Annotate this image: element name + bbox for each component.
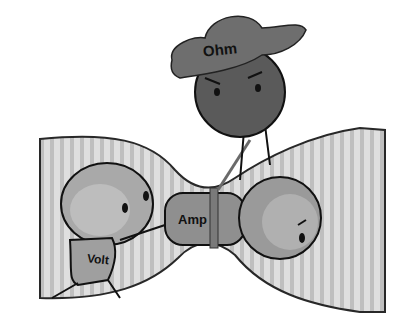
ohm-label: Ohm <box>202 39 238 59</box>
ohms-law-illustration: Amp Volt Ohm <box>0 0 401 333</box>
volt-label: Volt <box>86 251 109 267</box>
amp-label: Amp <box>178 212 207 227</box>
